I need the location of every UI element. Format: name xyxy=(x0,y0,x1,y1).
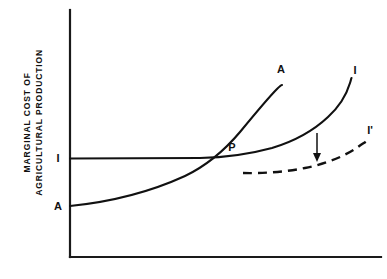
curve-a-marginal-cost xyxy=(70,85,282,206)
curve-label-a: A xyxy=(277,63,285,75)
y-tick-label-a: A xyxy=(54,200,62,212)
curve-label-i-prime: I' xyxy=(367,124,373,136)
intersection-point-label-p: P xyxy=(228,141,235,153)
chart-canvas: I A P A I I' xyxy=(0,0,387,279)
curve-label-i: I xyxy=(353,64,356,76)
downward-shift-arrow xyxy=(313,133,321,162)
curve-i-prime-lowered-supply xyxy=(243,142,366,174)
y-tick-label-i: I xyxy=(56,152,59,164)
arrow-head xyxy=(313,153,321,162)
curve-i-import-supply xyxy=(70,78,352,159)
economics-line-chart: MARGINAL COST OF AGRICULTURAL PRODUCTION… xyxy=(0,0,387,279)
